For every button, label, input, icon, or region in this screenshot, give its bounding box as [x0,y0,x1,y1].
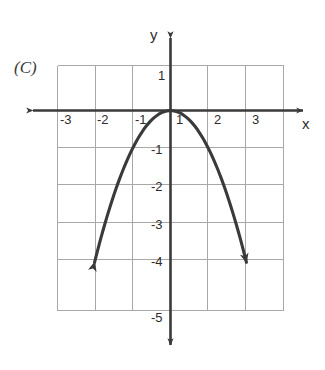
x-axis-label: x [302,115,310,132]
x-tick-label: 2 [214,113,221,126]
y-tick-label: 1 [158,69,165,82]
y-tick-label: -1 [151,143,163,156]
x-tick-label: 1 [176,113,183,126]
y-tick-label: -5 [151,311,163,324]
y-axis-label: y [150,26,158,43]
graph-figure: (C) y x -3 -2 -1 1 2 3 1 -1 -2 -3 -4 -5 [0,0,325,370]
x-tick-label: 3 [252,113,259,126]
y-tick-label: -3 [151,218,163,231]
x-tick-label: -3 [60,113,72,126]
y-tick-label: -4 [151,255,163,268]
y-tick-label: -2 [151,180,163,193]
panel-label: (C) [14,58,37,78]
x-tick-label: -1 [135,113,147,126]
x-tick-label: -2 [97,113,109,126]
axes [33,38,303,345]
